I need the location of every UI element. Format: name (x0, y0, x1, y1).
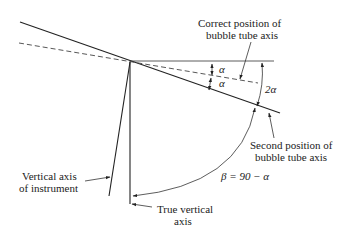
correct-position-leader (240, 42, 251, 79)
second-position-label-line1: Second position of (250, 139, 333, 151)
instrument-axis-leader (85, 177, 110, 181)
second-position-label-line2: bubble tube axis (255, 151, 327, 163)
second-position-leader (269, 113, 274, 138)
vertical-axis-label-line2: of instrument (19, 182, 78, 194)
vertical-axis-label-line1: Vertical axis (22, 170, 77, 182)
two-alpha-dimension-arrow (257, 63, 262, 106)
correct-position-label-line1: Correct position of (198, 17, 281, 29)
correct-position-label-line2: bubble tube axis (206, 29, 278, 41)
true-vertical-label-line2: axis (174, 215, 192, 227)
alpha-lower-label: α (219, 77, 225, 89)
bubble-tube-diagram: Correct position of bubble tube axis α α… (0, 0, 349, 239)
alpha-upper-label: α (219, 63, 225, 75)
beta-arc (133, 108, 255, 196)
beta-equation-label: β = 90 − α (220, 170, 269, 182)
two-alpha-label: 2α (265, 83, 277, 95)
instrument-vertical-axis-line (109, 62, 130, 196)
true-vertical-leader (132, 204, 152, 207)
true-vertical-label-line1: True vertical (157, 203, 213, 215)
